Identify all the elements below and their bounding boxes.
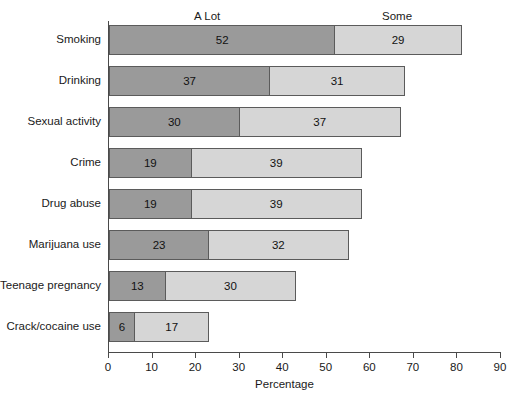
stacked-bar: 1939 <box>109 148 363 178</box>
x-tick <box>456 352 457 358</box>
category-label-teenage-pregnancy: Teenage pregnancy <box>0 271 101 301</box>
series-header-some: Some <box>382 10 412 22</box>
x-tick <box>326 352 327 358</box>
bar-segment-some: 39 <box>191 148 362 178</box>
category-label-text: Crime <box>0 157 101 169</box>
x-tick <box>108 352 109 358</box>
bar-segment-some: 30 <box>165 271 297 301</box>
bar-segment-some: 32 <box>208 230 348 260</box>
bar-segment-a-lot: 52 <box>109 25 335 55</box>
bar-row: Smoking5229 <box>0 25 521 55</box>
x-tick <box>152 352 153 358</box>
x-tick <box>239 352 240 358</box>
category-label-text: Smoking <box>0 34 101 46</box>
bar-segment-some: 37 <box>239 107 401 137</box>
stacked-bar-chart: A Lot Some Smoking5229Drinking3731Sexual… <box>0 0 521 407</box>
x-axis-line <box>108 352 501 353</box>
x-tick-label: 30 <box>232 361 245 373</box>
x-tick <box>500 352 501 358</box>
category-label-text: Crack/cocaine use <box>0 321 101 333</box>
category-label-text: Sexual activity <box>0 116 101 128</box>
category-label-smoking: Smoking <box>0 25 101 55</box>
x-tick-label: 10 <box>145 361 158 373</box>
stacked-bar: 617 <box>109 312 210 342</box>
bar-segment-a-lot: 30 <box>109 107 240 137</box>
bar-segment-some: 29 <box>334 25 461 55</box>
bar-row: Teenage pregnancy1330 <box>0 271 521 301</box>
bar-segment-some: 39 <box>191 189 362 219</box>
bar-segment-some: 17 <box>134 312 209 342</box>
x-tick <box>282 352 283 358</box>
bar-segment-some: 31 <box>269 66 405 96</box>
stacked-bar: 5229 <box>109 25 463 55</box>
x-tick-label: 70 <box>406 361 419 373</box>
x-tick-label: 60 <box>363 361 376 373</box>
bar-row: Drinking3731 <box>0 66 521 96</box>
bar-row: Marijuana use2332 <box>0 230 521 260</box>
x-tick-label: 20 <box>189 361 202 373</box>
bar-row: Drug abuse1939 <box>0 189 521 219</box>
x-tick <box>413 352 414 358</box>
x-tick-label: 50 <box>319 361 332 373</box>
category-label-text: Marijuana use <box>0 239 101 251</box>
x-tick-label: 40 <box>276 361 289 373</box>
bar-segment-a-lot: 37 <box>109 66 270 96</box>
x-tick-label: 90 <box>494 361 507 373</box>
x-tick <box>369 352 370 358</box>
bar-row: Crime1939 <box>0 148 521 178</box>
x-tick <box>195 352 196 358</box>
stacked-bar: 1330 <box>109 271 297 301</box>
bar-segment-a-lot: 6 <box>109 312 135 342</box>
stacked-bar: 3037 <box>109 107 402 137</box>
category-label-drinking: Drinking <box>0 66 101 96</box>
category-label-text: Drinking <box>0 75 101 87</box>
stacked-bar: 3731 <box>109 66 406 96</box>
category-label-text: Teenage pregnancy <box>0 280 101 292</box>
category-label-text: Drug abuse <box>0 198 101 210</box>
category-label-marijuana-use: Marijuana use <box>0 230 101 260</box>
bar-row: Sexual activity3037 <box>0 107 521 137</box>
x-tick-label: 0 <box>105 361 111 373</box>
category-label-crime: Crime <box>0 148 101 178</box>
category-label-sexual-activity: Sexual activity <box>0 107 101 137</box>
stacked-bar: 2332 <box>109 230 350 260</box>
category-label-drug-abuse: Drug abuse <box>0 189 101 219</box>
bar-segment-a-lot: 19 <box>109 189 192 219</box>
stacked-bar: 1939 <box>109 189 363 219</box>
x-axis-title: Percentage <box>0 378 521 390</box>
bar-row: Crack/cocaine use617 <box>0 312 521 342</box>
category-label-crack-cocaine-use: Crack/cocaine use <box>0 312 101 342</box>
x-tick-label: 80 <box>450 361 463 373</box>
bar-segment-a-lot: 19 <box>109 148 192 178</box>
bar-segment-a-lot: 13 <box>109 271 166 301</box>
bar-segment-a-lot: 23 <box>109 230 209 260</box>
series-header-a-lot: A Lot <box>194 10 220 22</box>
